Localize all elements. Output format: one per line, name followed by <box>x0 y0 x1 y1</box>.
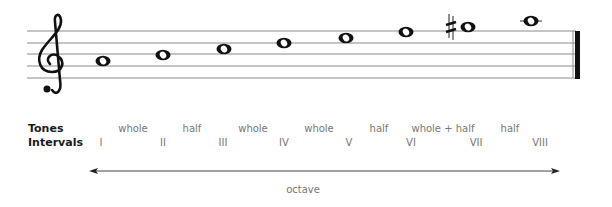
interval-label: VIII <box>532 137 548 148</box>
whole-note-icon <box>399 27 414 37</box>
treble-clef-dot <box>44 86 51 93</box>
whole-note-icon <box>96 56 111 66</box>
tones-row-label: Tones <box>28 122 63 135</box>
whole-note-icon <box>520 16 542 26</box>
music-staff <box>0 0 612 207</box>
tone-label: half <box>183 123 202 134</box>
octave-arrow <box>89 168 560 174</box>
tone-label: whole + half <box>411 123 474 134</box>
sharp-icon <box>446 14 456 40</box>
tone-label: whole <box>238 123 268 134</box>
notes <box>96 14 543 66</box>
tone-label: whole <box>118 123 148 134</box>
thick-barline <box>575 31 580 79</box>
interval-label: VII <box>470 137 483 148</box>
interval-label: III <box>219 137 228 148</box>
interval-label: IV <box>279 137 289 148</box>
intervals-row-label: Intervals <box>28 136 83 149</box>
staff-lines <box>27 31 576 78</box>
octave-label: octave <box>286 184 320 195</box>
interval-label: V <box>346 137 353 148</box>
whole-note-icon <box>277 38 292 48</box>
interval-label: II <box>160 137 166 148</box>
interval-label: I <box>100 137 103 148</box>
whole-note-icon <box>339 33 354 43</box>
tone-label: half <box>370 123 389 134</box>
whole-note-icon <box>217 44 232 54</box>
whole-note-icon <box>446 14 476 40</box>
whole-note-icon <box>156 50 171 60</box>
tone-label: half <box>501 123 520 134</box>
tone-label: whole <box>304 123 334 134</box>
interval-label: VI <box>406 137 416 148</box>
